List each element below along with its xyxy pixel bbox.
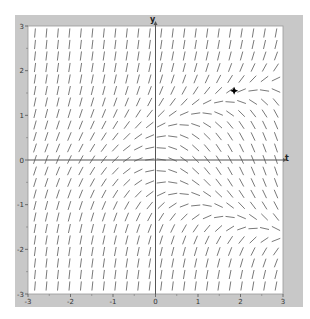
- y-tick-label: -3: [17, 291, 24, 299]
- x-tick-label: -3: [25, 298, 32, 306]
- slope-segment: [180, 125, 188, 126]
- slope-field-chart: -3-2-10123-3-2-10123 t y: [0, 0, 310, 319]
- x-tick-label: 1: [196, 298, 200, 306]
- slope-segment: [157, 148, 165, 149]
- x-axis-label: t: [285, 154, 289, 163]
- y-axis-label: y: [150, 15, 156, 24]
- y-tick-label: 3: [20, 23, 24, 31]
- x-tick-label: 2: [238, 298, 242, 306]
- x-tick-label: 0: [153, 298, 157, 306]
- y-tick-label: 2: [20, 67, 24, 75]
- x-tick-label: -1: [110, 298, 117, 306]
- y-tick-label: 0: [20, 157, 24, 165]
- y-tick-label: -1: [17, 201, 24, 209]
- x-tick-label: -2: [67, 298, 74, 306]
- y-tick-label: 1: [20, 112, 24, 120]
- x-tick-label: 3: [281, 298, 285, 306]
- slope-segment: [226, 102, 234, 103]
- y-tick-label: -2: [17, 246, 24, 254]
